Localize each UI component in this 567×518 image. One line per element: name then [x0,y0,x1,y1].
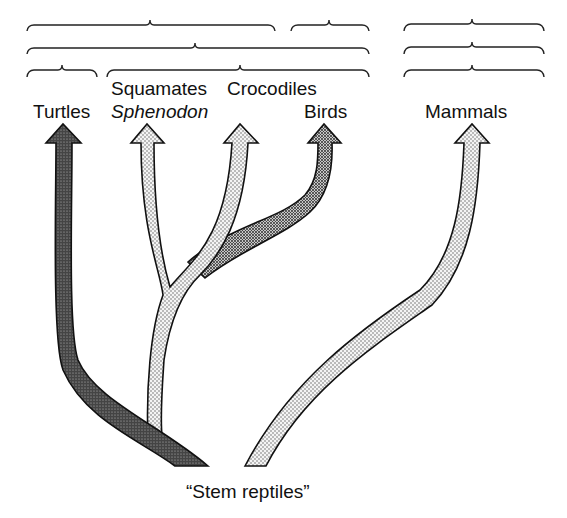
bracket-diapsid-group [107,65,369,77]
label-mammals: Mammals [425,102,507,121]
mammals-lineage [245,124,489,466]
bracket-turtles [27,65,97,77]
label-sphenodon: Sphenodon [111,102,208,121]
bracket-mammals-2 [404,42,544,54]
bracket-diapsids [27,20,275,31]
bracket-mammals-3 [404,65,544,77]
bracket-archosaurs [291,20,369,31]
label-stem-reptiles: “Stem reptiles” [186,482,310,501]
clade-brackets [27,19,544,77]
bracket-reptiles [27,43,369,54]
label-turtles: Turtles [33,102,90,121]
label-squamates: Squamates [111,79,207,98]
label-birds: Birds [304,102,347,121]
bracket-mammals-1 [404,19,544,31]
label-crocodiles: Crocodiles [227,79,317,98]
squamates-crocodiles-lineage [131,124,258,440]
